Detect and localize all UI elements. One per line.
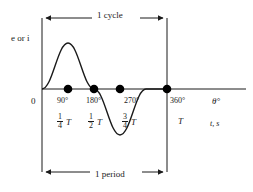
marker-180deg bbox=[90, 85, 99, 94]
time-tick-three-quarter: 3 4 T bbox=[122, 113, 136, 131]
marker-360deg bbox=[163, 85, 172, 94]
x-tick-270: 270° bbox=[124, 97, 139, 105]
full-period-symbol: T bbox=[178, 117, 183, 126]
period-symbol-half: T bbox=[97, 117, 102, 127]
cycle-label: 1 cycle bbox=[97, 11, 123, 20]
period-label: 1 period bbox=[95, 170, 125, 179]
fraction-one-quarter: 1 4 bbox=[57, 113, 63, 131]
fraction-one-half: 1 2 bbox=[88, 113, 94, 131]
sine-wave-figure: 1 cycle 1 period e or i 0 90° 180° 270° … bbox=[0, 0, 253, 192]
x-axis-symbol: θ° bbox=[212, 97, 220, 106]
y-axis-label: e or i bbox=[11, 34, 30, 43]
period-symbol-quarter: T bbox=[66, 117, 71, 127]
time-axis-symbol: t, s bbox=[210, 120, 219, 128]
period-symbol-three-quarter: T bbox=[131, 117, 136, 127]
marker-90deg bbox=[64, 85, 73, 94]
time-tick-half: 1 2 T bbox=[88, 113, 102, 131]
x-tick-90: 90° bbox=[57, 97, 68, 105]
marker-270deg bbox=[116, 85, 125, 94]
origin-label: 0 bbox=[31, 97, 36, 106]
time-tick-quarter: 1 4 T bbox=[57, 113, 71, 131]
fraction-three-quarters: 3 4 bbox=[122, 113, 128, 131]
x-tick-360: 360° bbox=[170, 97, 185, 105]
x-tick-180: 180° bbox=[86, 97, 101, 105]
